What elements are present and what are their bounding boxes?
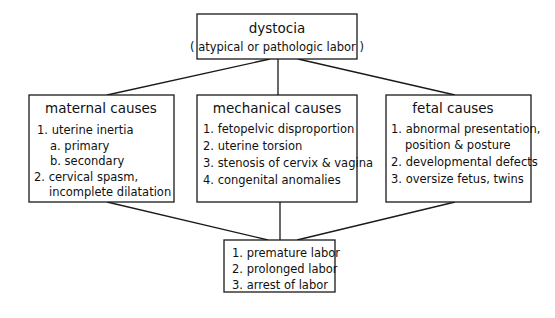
- connector-maternal-to-outcome: [107, 202, 268, 240]
- dystocia-box: dystocia ( atypical or pathologic labor …: [190, 14, 364, 59]
- fetal-item: 1. abnormal presentation,: [391, 122, 540, 136]
- mechanical-item: 3. stenosis of cervix & vagina: [203, 156, 373, 170]
- outcome-box: 1. premature labor 2. prolonged labor 3.…: [224, 240, 340, 292]
- outcome-item: 2. prolonged labor: [232, 262, 338, 276]
- connector-top-to-fetal: [298, 59, 455, 95]
- mechanical-causes-box: mechanical causes 1. fetopelvic dispropo…: [197, 95, 373, 202]
- fetal-item: 2. developmental defects: [391, 155, 538, 169]
- mechanical-item: 1. fetopelvic disproportion: [203, 122, 354, 136]
- connector-fetal-to-outcome: [297, 202, 455, 240]
- mechanical-item: 4. congenital anomalies: [203, 173, 341, 187]
- maternal-item: 2. cervical spasm,: [34, 170, 138, 184]
- fetal-item: 3. oversize fetus, twins: [391, 172, 524, 186]
- connector-top-to-maternal: [107, 59, 270, 95]
- maternal-item-continued: incomplete dilatation: [49, 185, 171, 199]
- maternal-causes-box: maternal causes 1. uterine inertia a. pr…: [29, 95, 174, 202]
- dystocia-subtitle: ( atypical or pathologic labor ): [190, 40, 364, 54]
- fetal-item-continued: position & posture: [405, 138, 511, 152]
- dystocia-title: dystocia: [249, 20, 306, 36]
- maternal-causes-title: maternal causes: [45, 100, 157, 116]
- maternal-item: 1. uterine inertia: [37, 123, 133, 137]
- dystocia-diagram: dystocia ( atypical or pathologic labor …: [0, 0, 555, 318]
- outcome-item: 1. premature labor: [232, 246, 340, 260]
- maternal-subitem: b. secondary: [50, 154, 124, 168]
- mechanical-item: 2. uterine torsion: [203, 139, 302, 153]
- fetal-causes-title: fetal causes: [412, 100, 493, 116]
- maternal-subitem: a. primary: [50, 139, 110, 153]
- outcome-item: 3. arrest of labor: [232, 278, 328, 292]
- mechanical-causes-title: mechanical causes: [213, 100, 341, 116]
- fetal-causes-box: fetal causes 1. abnormal presentation, p…: [386, 95, 540, 202]
